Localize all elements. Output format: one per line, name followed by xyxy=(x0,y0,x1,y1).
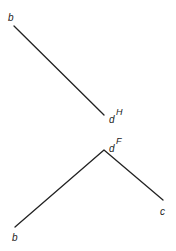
segment-bd-top xyxy=(14,26,104,115)
label-F-bottom: F xyxy=(116,136,122,146)
bottom-figure: d F c b xyxy=(12,136,165,243)
label-H-top: H xyxy=(116,107,123,117)
label-b-top: b xyxy=(8,12,14,23)
label-b-bottom: b xyxy=(12,232,18,243)
diagram-canvas: b d H d F c b xyxy=(0,0,176,251)
label-d-top: d xyxy=(109,114,115,125)
polyline-bdc-bottom xyxy=(15,150,163,227)
label-d-bottom: d xyxy=(109,143,115,154)
label-c-bottom: c xyxy=(160,206,165,217)
top-figure: b d H xyxy=(8,12,123,125)
